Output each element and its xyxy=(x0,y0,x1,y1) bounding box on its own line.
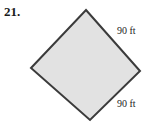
geometry-figure-panel: 21. 90 ft 90 ft xyxy=(0,0,152,122)
side-length-label-lower-right: 90 ft xyxy=(117,98,136,109)
side-length-label-upper-right: 90 ft xyxy=(117,25,136,36)
